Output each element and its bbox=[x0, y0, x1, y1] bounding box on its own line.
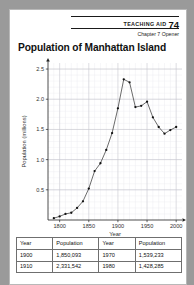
data-point bbox=[99, 162, 101, 164]
x-axis-arrow bbox=[183, 218, 187, 222]
data-point bbox=[146, 100, 148, 102]
worksheet-page: TEACHING AID74 Chapter 7 Opener Populati… bbox=[9, 9, 187, 285]
data-point bbox=[175, 126, 177, 128]
data-point bbox=[88, 187, 90, 189]
cell-population: 1,428,285 bbox=[135, 261, 181, 273]
data-point bbox=[93, 170, 95, 172]
y-tick-label: 0.5 bbox=[36, 187, 44, 193]
data-point bbox=[76, 207, 78, 209]
data-point bbox=[140, 105, 142, 107]
y-tick-label: 1.0 bbox=[36, 157, 44, 163]
data-point bbox=[70, 212, 72, 214]
data-point bbox=[105, 149, 107, 151]
y-tick-label: 1.5 bbox=[36, 126, 44, 132]
data-point bbox=[59, 215, 61, 217]
chart-svg: 0.51.01.52.02.518001850190019502000Popul… bbox=[14, 55, 186, 240]
y-axis-title: Population (millions) bbox=[21, 115, 27, 167]
header-rule-top bbox=[71, 16, 179, 17]
x-tick-label: 1850 bbox=[83, 223, 95, 229]
teaching-aid-header: TEACHING AID74 Chapter 7 Opener bbox=[71, 16, 179, 37]
data-point bbox=[169, 129, 171, 131]
data-point bbox=[128, 81, 130, 83]
table-row: 19001,850,09319701,539,233 bbox=[17, 249, 182, 261]
y-tick-label: 2.0 bbox=[36, 96, 44, 102]
cell-population: 1,850,093 bbox=[53, 249, 99, 261]
header-rule-bottom bbox=[71, 28, 179, 29]
data-point bbox=[111, 132, 113, 134]
teaching-aid-number: 74 bbox=[168, 19, 179, 30]
data-point bbox=[64, 213, 66, 215]
data-point bbox=[117, 107, 119, 109]
col-header-population-1: Population bbox=[53, 238, 99, 250]
col-header-population-2: Population bbox=[135, 238, 181, 250]
population-data-table: Year Population Year Population 19001,85… bbox=[16, 237, 182, 273]
cell-population: 1,539,233 bbox=[135, 249, 181, 261]
col-header-year-2: Year bbox=[99, 238, 135, 250]
data-point bbox=[163, 133, 165, 135]
x-tick-label: 1800 bbox=[53, 223, 65, 229]
page-title: Population of Manhattan Island bbox=[18, 42, 166, 53]
data-series-line bbox=[54, 79, 176, 218]
y-axis-arrow bbox=[46, 58, 50, 62]
data-point bbox=[123, 78, 125, 80]
x-tick-label: 1950 bbox=[141, 223, 153, 229]
x-tick-label: 1900 bbox=[112, 223, 124, 229]
population-data-table-wrap: Year Population Year Population 19001,85… bbox=[16, 237, 182, 273]
cell-year: 1970 bbox=[99, 249, 135, 261]
table-header: Year Population Year Population bbox=[17, 238, 182, 250]
col-header-year-1: Year bbox=[17, 238, 53, 250]
cell-population: 2,331,542 bbox=[53, 261, 99, 273]
table-body: 19001,850,09319701,539,23319102,331,5421… bbox=[17, 249, 182, 273]
y-tick-label: 2.5 bbox=[36, 66, 44, 72]
table-header-row: Year Population Year Population bbox=[17, 238, 182, 250]
data-point bbox=[134, 106, 136, 108]
x-tick-label: 2000 bbox=[170, 223, 182, 229]
teaching-aid-line: TEACHING AID74 bbox=[71, 18, 179, 28]
minor-gridlines bbox=[48, 63, 182, 220]
data-point bbox=[82, 200, 84, 202]
data-point bbox=[53, 217, 55, 219]
teaching-aid-label: TEACHING AID bbox=[123, 21, 166, 27]
data-point bbox=[158, 126, 160, 128]
data-point bbox=[152, 116, 154, 118]
cell-year: 1900 bbox=[17, 249, 53, 261]
table-row: 19102,331,54219801,428,285 bbox=[17, 261, 182, 273]
population-line-chart: 0.51.01.52.02.518001850190019502000Popul… bbox=[14, 55, 186, 240]
chapter-opener-label: Chapter 7 Opener bbox=[71, 31, 179, 37]
cell-year: 1980 bbox=[99, 261, 135, 273]
cell-year: 1910 bbox=[17, 261, 53, 273]
